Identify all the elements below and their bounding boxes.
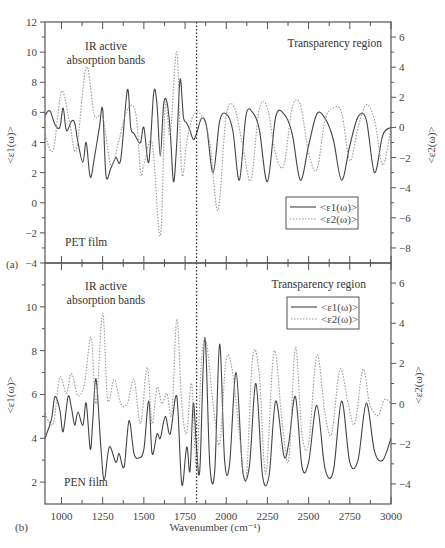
panel-b-ylabel-right: <ε2(ω)> bbox=[412, 366, 425, 403]
y-left-tick-label: 4 bbox=[32, 432, 38, 444]
x-tick-label: 3000 bbox=[380, 510, 403, 522]
y-right-tick-label: 2 bbox=[399, 91, 405, 103]
x-tick-label: 1000 bbox=[50, 510, 73, 522]
y-right-tick-label: 4 bbox=[399, 61, 405, 73]
x-tick-label: 1250 bbox=[92, 510, 115, 522]
y-left-tick-label: 12 bbox=[26, 16, 37, 28]
y-right-tick-label: 4 bbox=[399, 317, 405, 329]
panel-a-annotation-ir-line1: IR active bbox=[85, 40, 127, 52]
y-right-tick-label: −2 bbox=[399, 438, 411, 450]
y-left-tick-label: 6 bbox=[32, 106, 38, 118]
panel-a-legend: <ε1(ω)> <ε2(ω)> bbox=[286, 197, 358, 229]
panel-a-ylabel-right: <ε2(ω)> bbox=[425, 126, 438, 163]
panel-b-legend-eps2: <ε2(ω)> bbox=[321, 313, 358, 326]
panel-b-curves bbox=[45, 313, 391, 486]
y-left-tick-label: 6 bbox=[32, 388, 38, 400]
x-tick-label: 1500 bbox=[133, 510, 156, 522]
panel-a: −4−2024681012−8−6−4−20246 IR active abso… bbox=[4, 16, 438, 271]
y-right-tick-label: 6 bbox=[399, 31, 405, 43]
x-tick-label: 2500 bbox=[298, 510, 321, 522]
panel-b-legend: <ε1(ω)> <ε2(ω)> bbox=[287, 297, 359, 329]
eps1-curve bbox=[45, 79, 391, 182]
y-left-tick-label: −2 bbox=[25, 227, 37, 239]
panel-b-annotation-transparency: Transparency region bbox=[272, 278, 367, 291]
y-left-tick-label: 8 bbox=[32, 76, 38, 88]
y-left-tick-label: 10 bbox=[26, 46, 38, 58]
eps1-curve bbox=[45, 337, 391, 485]
y-left-tick-label: 2 bbox=[32, 167, 38, 179]
panel-b-annotation-ir-line2: absorption bands bbox=[67, 294, 146, 307]
eps2-curve bbox=[45, 313, 391, 482]
y-right-tick-label: 0 bbox=[399, 121, 405, 133]
y-right-tick-label: −6 bbox=[399, 212, 411, 224]
y-right-tick-label: −4 bbox=[399, 478, 411, 490]
y-right-tick-label: −2 bbox=[399, 152, 411, 164]
y-left-tick-label: −4 bbox=[25, 257, 37, 269]
y-left-tick-label: 10 bbox=[26, 301, 38, 313]
panel-b-film-label: PEN film bbox=[64, 476, 108, 488]
panel-a-legend-eps2: <ε2(ω)> bbox=[320, 213, 357, 226]
y-left-tick-label: 2 bbox=[32, 476, 38, 488]
y-right-tick-label: 2 bbox=[399, 357, 405, 369]
panel-b-annotation-ir-line1: IR active bbox=[85, 280, 127, 292]
panel-a-label: (a) bbox=[6, 258, 19, 271]
figure: −4−2024681012−8−6−4−20246 IR active abso… bbox=[0, 0, 445, 548]
y-right-tick-label: −4 bbox=[399, 182, 411, 194]
y-left-tick-label: 4 bbox=[32, 137, 38, 149]
panel-b-ylabel-left: <ε1(ω)> bbox=[4, 376, 17, 413]
panel-a-annotation-transparency: Transparency region bbox=[288, 37, 383, 50]
y-right-tick-label: 0 bbox=[399, 398, 405, 410]
panel-b-label: (b) bbox=[15, 521, 28, 534]
panel-a-ylabel-left: <ε1(ω)> bbox=[4, 126, 17, 163]
panel-a-annotation-ir-line2: absorption bands bbox=[67, 54, 146, 67]
y-left-tick-label: 8 bbox=[32, 345, 38, 357]
y-right-tick-label: −8 bbox=[399, 242, 411, 254]
y-left-tick-label: 0 bbox=[32, 197, 38, 209]
y-right-tick-label: 6 bbox=[399, 277, 405, 289]
x-axis-title: Wavenumber (cm⁻¹) bbox=[170, 521, 261, 534]
panel-b: 1000125015001750200022502500275030002468… bbox=[4, 263, 425, 534]
panel-a-film-label: PET film bbox=[65, 236, 107, 248]
x-tick-label: 2750 bbox=[339, 510, 362, 522]
